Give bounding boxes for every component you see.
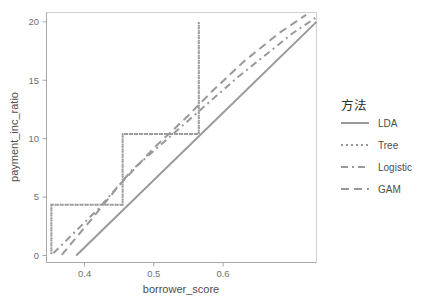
y-tick-label: 10 [28, 133, 39, 144]
x-axis-ticks: 0.40.50.6 [78, 263, 230, 280]
legend-label-lda[interactable]: LDA [378, 118, 398, 129]
y-axis-ticks: 05101520 [28, 16, 46, 261]
y-tick-label: 15 [28, 75, 39, 86]
legend-label-gam[interactable]: GAM [378, 184, 401, 195]
x-tick-label: 0.6 [216, 268, 229, 279]
y-tick-label: 5 [34, 191, 39, 202]
y-tick-label: 0 [34, 250, 39, 261]
y-tick-label: 20 [28, 16, 39, 27]
chart-plot: 05101520 0.40.50.6 borrower_score paymen… [0, 0, 442, 302]
x-axis-title: borrower_score [143, 283, 219, 295]
legend-label-tree[interactable]: Tree [378, 140, 399, 151]
legend-label-logistic[interactable]: Logistic [378, 162, 412, 173]
x-tick-label: 0.5 [147, 268, 160, 279]
chart-container: 05101520 0.40.50.6 borrower_score paymen… [0, 0, 442, 302]
x-tick-label: 0.4 [78, 268, 91, 279]
legend-title: 方法 [341, 98, 367, 113]
y-axis-title: payment_inc_ratio [8, 92, 20, 182]
legend-items: LDATreeLogisticGAM [341, 118, 412, 195]
legend: 方法 LDATreeLogisticGAM [341, 98, 412, 195]
